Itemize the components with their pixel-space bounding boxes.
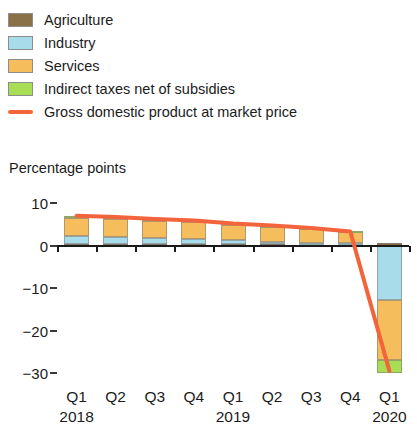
legend-swatch-icon (8, 82, 33, 96)
legend-item-indirect-taxes: Indirect taxes net of subsidies (8, 77, 408, 100)
x-axis-tick-mark (253, 246, 255, 252)
legend-label: Gross domestic product at market price (44, 105, 297, 119)
x-axis-quarter-label: Q2 (96, 388, 135, 406)
legend-item-services: Services (8, 54, 408, 77)
legend-label: Services (44, 59, 100, 73)
gdp-line-series (0, 190, 417, 385)
gdp-line-path (77, 216, 390, 371)
x-axis-year-label: 2018 (57, 408, 96, 426)
x-axis-tick-mark (331, 246, 333, 252)
x-axis-tick-mark (135, 246, 137, 252)
x-axis-tick-mark (57, 246, 59, 252)
x-axis-tick-mark (370, 246, 372, 252)
y-axis-tick-mark (50, 245, 57, 247)
legend-line-icon (8, 110, 33, 114)
gdp-contribution-chart: Agriculture Industry Services Indirect t… (0, 0, 417, 428)
legend-item-industry: Industry (8, 31, 408, 54)
x-axis-quarter-label: Q4 (174, 388, 213, 406)
legend-item-gdp: Gross domestic product at market price (8, 100, 408, 123)
x-axis-quarter-label: Q1 (213, 388, 252, 406)
x-axis-quarter-label: Q3 (135, 388, 174, 406)
legend-item-agriculture: Agriculture (8, 8, 408, 31)
y-axis-tick-mark (50, 202, 57, 204)
x-axis-quarter-label: Q4 (331, 388, 370, 406)
x-axis-quarter-label: Q3 (292, 388, 331, 406)
chart-legend: Agriculture Industry Services Indirect t… (8, 8, 408, 123)
y-axis-tick-mark (50, 330, 57, 332)
legend-label: Agriculture (44, 13, 113, 27)
x-axis-year-label: 2020 (370, 408, 409, 426)
x-axis-tick-mark (96, 246, 98, 252)
legend-label: Industry (44, 36, 96, 50)
legend-swatch-icon (8, 13, 33, 27)
y-axis-tick-mark (50, 372, 57, 374)
x-axis-quarter-label: Q2 (253, 388, 292, 406)
x-axis-quarter-label: Q1 (370, 388, 409, 406)
x-axis-tick-mark (213, 246, 215, 252)
plot-area: 100−10−20−30 (0, 190, 417, 385)
x-axis-tick-mark (409, 246, 411, 252)
x-axis-quarter-label: Q1 (57, 388, 96, 406)
y-axis-title: Percentage points (9, 160, 126, 176)
x-axis-labels: Q1Q2Q3Q4Q1Q2Q3Q4Q1201820192020 (57, 388, 409, 428)
legend-swatch-icon (8, 36, 33, 50)
legend-label: Indirect taxes net of subsidies (44, 82, 235, 96)
x-axis-year-label: 2019 (213, 408, 252, 426)
legend-swatch-icon (8, 59, 33, 73)
x-axis-tick-mark (292, 246, 294, 252)
x-axis-tick-mark (174, 246, 176, 252)
y-axis-tick-mark (50, 287, 57, 289)
